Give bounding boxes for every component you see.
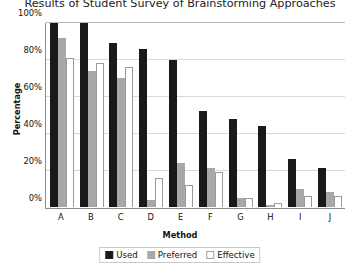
bar-preferred-g[interactable]: [237, 198, 245, 207]
bar-effective-a[interactable]: [66, 58, 74, 207]
legend-swatch-icon: [147, 251, 155, 259]
bar-preferred-b[interactable]: [88, 71, 96, 207]
bar-used-f[interactable]: [199, 111, 207, 207]
legend-swatch-icon: [206, 251, 214, 259]
bar-preferred-i[interactable]: [296, 189, 304, 207]
legend-label: Effective: [217, 250, 255, 260]
legend-item-used[interactable]: Used: [105, 250, 138, 260]
bar-group: [77, 23, 107, 207]
x-axis-ticks: ABCDEFGHIJ: [46, 212, 345, 222]
bar-preferred-d[interactable]: [147, 200, 155, 207]
x-axis-tick-label-h: H: [255, 212, 285, 222]
bar-group: [256, 23, 286, 207]
legend-item-effective[interactable]: Effective: [206, 250, 255, 260]
y-axis-tick-label: 100%: [18, 8, 42, 18]
bar-preferred-f[interactable]: [207, 168, 215, 207]
bar-group: [107, 23, 137, 207]
x-axis-tick-label-a: A: [46, 212, 76, 222]
bar-group: [136, 23, 166, 207]
bar-used-e[interactable]: [169, 60, 177, 207]
bar-used-h[interactable]: [258, 126, 266, 207]
legend-swatch-icon: [105, 251, 113, 259]
bar-group: [47, 23, 77, 207]
x-axis-tick-label-g: G: [225, 212, 255, 222]
legend-item-preferred[interactable]: Preferred: [147, 250, 197, 260]
bar-effective-h[interactable]: [274, 203, 282, 207]
chart-legend: UsedPreferredEffective: [99, 247, 260, 263]
bar-effective-b[interactable]: [96, 63, 104, 207]
x-axis-tick-label-f: F: [196, 212, 226, 222]
bar-used-g[interactable]: [229, 119, 237, 207]
bar-effective-c[interactable]: [125, 67, 133, 207]
bar-group: [315, 23, 345, 207]
bar-preferred-j[interactable]: [326, 192, 334, 207]
bar-effective-f[interactable]: [215, 172, 223, 207]
bar-used-c[interactable]: [109, 43, 117, 207]
bar-preferred-c[interactable]: [117, 78, 125, 207]
bar-groups: [47, 23, 345, 207]
x-axis-tick-label-j: J: [315, 212, 345, 222]
x-axis-label: Method: [0, 230, 360, 240]
bar-group: [285, 23, 315, 207]
chart-title: Results of Student Survey of Brainstormi…: [0, 0, 360, 11]
x-axis-tick-label-e: E: [166, 212, 196, 222]
y-axis-label: Percentage: [12, 69, 22, 149]
bar-preferred-e[interactable]: [177, 163, 185, 207]
bar-used-a[interactable]: [50, 23, 58, 207]
y-axis-tick-label: 40%: [23, 119, 42, 129]
bar-preferred-h[interactable]: [266, 205, 274, 207]
bar-group: [166, 23, 196, 207]
bar-group: [226, 23, 256, 207]
bar-effective-e[interactable]: [185, 185, 193, 207]
bar-group: [196, 23, 226, 207]
legend-label: Preferred: [158, 250, 197, 260]
bar-used-j[interactable]: [318, 168, 326, 207]
bar-effective-j[interactable]: [334, 196, 342, 207]
plot-area: 0%20%40%60%80%100%: [45, 23, 345, 209]
y-axis-tick-label: 0%: [29, 193, 42, 203]
x-axis-tick-label-c: C: [106, 212, 136, 222]
bar-effective-g[interactable]: [245, 198, 253, 207]
x-axis-tick-label-b: B: [76, 212, 106, 222]
x-axis-tick-label-d: D: [136, 212, 166, 222]
bar-used-b[interactable]: [80, 23, 88, 207]
y-axis-tick-label: 80%: [23, 45, 42, 55]
bar-effective-i[interactable]: [304, 196, 312, 207]
y-axis-tick-label: 60%: [23, 82, 42, 92]
bar-used-i[interactable]: [288, 159, 296, 207]
bar-used-d[interactable]: [139, 49, 147, 207]
bar-chart: Results of Student Survey of Brainstormi…: [0, 0, 360, 269]
bar-preferred-a[interactable]: [58, 38, 66, 207]
x-axis-tick-label-i: I: [285, 212, 315, 222]
legend-label: Used: [116, 250, 138, 260]
y-axis-tick-label: 20%: [23, 156, 42, 166]
bar-effective-d[interactable]: [155, 178, 163, 207]
